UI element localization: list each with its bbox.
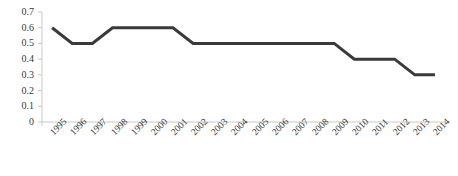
line-chart: 00.10.20.30.40.50.60.7 19951996199719981… (0, 0, 458, 176)
y-axis-tick-label: 0.3 (4, 70, 34, 80)
y-axis (38, 12, 42, 122)
chart-plot-area (0, 0, 458, 176)
y-axis-tick-label: 0.7 (4, 7, 34, 17)
series-line-0 (52, 28, 435, 75)
y-axis-tick-label: 0 (4, 117, 34, 127)
y-axis-tick-label: 0.2 (4, 86, 34, 96)
data-series-group (52, 28, 435, 75)
y-axis-tick-label: 0.1 (4, 101, 34, 111)
y-axis-tick-label: 0.5 (4, 38, 34, 48)
y-axis-tick-label: 0.4 (4, 54, 34, 64)
y-axis-tick-label: 0.6 (4, 23, 34, 33)
